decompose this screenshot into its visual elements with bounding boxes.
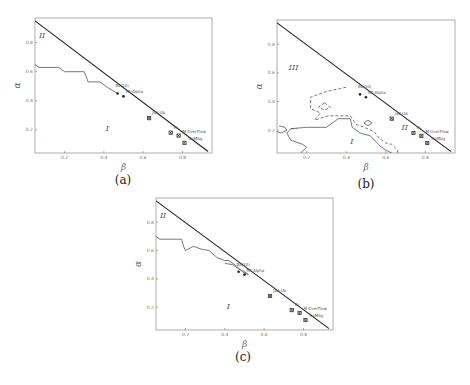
- data-point-label: Bk(10): [237, 262, 251, 267]
- x-marker-icon: [426, 142, 429, 145]
- region-label: III: [288, 63, 299, 72]
- plot-area-a: 0.20.40.60.80.20.40.60.8βαIIIBk(10)RF-Al…: [12, 18, 212, 172]
- y-tick-label: 0.8: [26, 40, 33, 45]
- data-point-label: Rc: [295, 302, 300, 307]
- data-point-label: Jad-Ub: [151, 110, 166, 115]
- y-tick-label: 0.6: [268, 70, 275, 75]
- region-label: I: [349, 137, 354, 146]
- y-tick-label: 0.2: [147, 305, 154, 310]
- x-tick-label: 0.4: [221, 332, 228, 337]
- x-marker-icon: [148, 117, 151, 120]
- x-tick-label: 0.6: [140, 155, 147, 160]
- data-point-label: Jad-Ub: [394, 111, 409, 116]
- x-tick-label: 0.4: [100, 155, 107, 160]
- plot-area-c: 0.20.40.60.80.20.40.60.8βαIIIBk(10)RF-Al…: [133, 198, 333, 349]
- caption-c: (c): [235, 350, 251, 364]
- phase-curve: [311, 87, 398, 153]
- y-tick-label: 0.4: [26, 98, 33, 103]
- data-point-marker: [243, 273, 246, 276]
- x-tick-label: 0.8: [422, 155, 429, 160]
- data-point-marker: [365, 96, 368, 99]
- region-label: I: [105, 124, 110, 133]
- data-point-label: Jad-Ub: [272, 288, 287, 293]
- phase-curve: [364, 120, 372, 126]
- data-point-marker: [237, 271, 240, 274]
- x-marker-icon: [298, 312, 301, 315]
- panel-b: 0.20.40.60.80.20.40.60.8βαIIIIIIBk(10)RF…: [254, 20, 455, 191]
- x-tick-label: 0.2: [182, 332, 189, 337]
- data-point-marker: [359, 93, 362, 96]
- phase-curve: [319, 103, 331, 110]
- data-point-label: Rc: [416, 125, 421, 130]
- x-tick-label: 0.4: [343, 155, 350, 160]
- region-label: I: [226, 302, 231, 311]
- phase-curve: [156, 236, 248, 274]
- data-point-label: M OverFlow: [183, 129, 207, 134]
- plot-area-b: 0.20.40.60.80.20.40.60.8βαIIIIIIBk(10)RF…: [254, 20, 455, 172]
- caption-a: (a): [115, 173, 132, 187]
- x-tick-label: 0.6: [261, 332, 268, 337]
- x-marker-icon: [420, 135, 423, 138]
- x-tick-label: 0.8: [179, 155, 186, 160]
- y-tick-label: 0.8: [147, 220, 154, 225]
- y-tick-label: 0.2: [26, 127, 33, 132]
- data-point-label: Bk(10): [358, 84, 372, 89]
- data-point-label: CoMbg: [309, 313, 323, 318]
- data-point-label: CoMbg: [431, 136, 445, 141]
- y-tick-label: 0.4: [147, 276, 154, 281]
- x-tick-label: 0.8: [300, 332, 307, 337]
- y-tick-label: 0.6: [26, 69, 33, 74]
- x-marker-icon: [183, 142, 186, 145]
- data-point-marker: [116, 92, 119, 95]
- x-axis-label: β: [241, 339, 247, 349]
- x-marker-icon: [269, 295, 272, 298]
- phase-curve: [35, 65, 118, 94]
- y-axis-label: α: [12, 82, 22, 88]
- panel-a: 0.20.40.60.80.20.40.60.8βαIIIBk(10)RF-Al…: [12, 18, 212, 187]
- data-point-label: CoMbg: [188, 136, 202, 141]
- y-tick-label: 0.8: [268, 42, 275, 47]
- x-tick-label: 0.2: [303, 155, 310, 160]
- x-marker-icon: [390, 117, 393, 120]
- region-label: II: [38, 31, 46, 40]
- data-point-label: RF-Alpha: [126, 89, 144, 94]
- data-point-marker: [122, 95, 125, 98]
- phase-curve: [287, 119, 392, 153]
- panel-c: 0.20.40.60.80.20.40.60.8βαIIIBk(10)RF-Al…: [133, 198, 333, 364]
- data-point-label: RF-Alpha: [247, 268, 265, 273]
- x-axis-label: β: [120, 162, 126, 172]
- data-point-label: RF-Alpha: [368, 90, 386, 95]
- y-tick-label: 0.2: [268, 128, 275, 133]
- x-marker-icon: [169, 131, 172, 134]
- x-marker-icon: [412, 132, 415, 135]
- x-marker-icon: [290, 309, 293, 312]
- x-axis-label: β: [362, 162, 368, 172]
- y-tick-label: 0.6: [147, 248, 154, 253]
- region-label: II: [159, 211, 167, 220]
- region-label: II: [401, 123, 409, 132]
- x-tick-label: 0.6: [382, 155, 389, 160]
- data-point-label: M OverFlow: [304, 306, 328, 311]
- phase-curve: [277, 126, 287, 133]
- x-marker-icon: [177, 134, 180, 137]
- y-axis-label: α: [254, 83, 264, 89]
- caption-b: (b): [357, 177, 374, 191]
- x-tick-label: 0.2: [61, 155, 68, 160]
- y-axis-label: α: [133, 261, 143, 267]
- data-point-label: Rc: [174, 125, 179, 130]
- x-marker-icon: [304, 319, 307, 322]
- data-point-label: Bk(10): [116, 83, 130, 88]
- y-tick-label: 0.4: [268, 99, 275, 104]
- figure: 0.20.40.60.80.20.40.60.8βαIIIBk(10)RF-Al…: [0, 0, 470, 385]
- data-point-label: M OverFlow: [425, 129, 449, 134]
